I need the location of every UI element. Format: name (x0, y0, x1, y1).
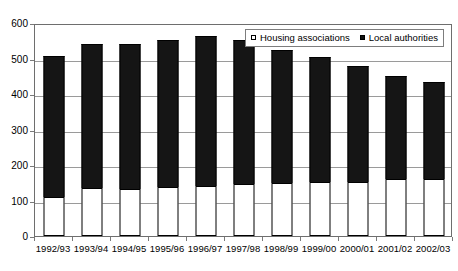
bar-segment-local-authorities (196, 36, 217, 186)
stacked-bar-chart: 600 500 400 300 200 100 0 Housing associ… (0, 0, 458, 271)
bar-group (339, 25, 377, 236)
bar-segment-housing-associations (82, 188, 103, 236)
x-tick-mark (110, 237, 111, 241)
bar-segment-housing-associations (310, 182, 331, 236)
x-tick-label: 2001/02 (378, 243, 412, 254)
bar-segment-housing-associations (120, 189, 141, 236)
x-axis: 1992/931993/941994/951995/961996/971997/… (34, 243, 452, 263)
bar-segment-local-authorities (348, 66, 369, 182)
bar-segment-housing-associations (348, 182, 369, 236)
bar-segment-local-authorities (82, 44, 103, 188)
y-tick-label: 200 (11, 161, 28, 171)
bar-group (377, 25, 415, 236)
x-tick-label: 1992/93 (36, 243, 70, 254)
legend-entry-housing-associations: Housing associations (251, 32, 350, 43)
y-tick-label: 500 (11, 55, 28, 65)
plot-area (34, 24, 452, 237)
open-square-icon (251, 35, 256, 40)
bar-stack (196, 36, 217, 236)
x-tick-mark (34, 237, 35, 241)
bar-segment-housing-associations (234, 184, 255, 236)
bar-segment-housing-associations (272, 183, 293, 236)
bar-group (187, 25, 225, 236)
bar-stack (158, 40, 179, 236)
bar-stack (310, 57, 331, 236)
bar-segment-local-authorities (272, 50, 293, 183)
y-tick-label: 400 (11, 90, 28, 100)
bar-stack (120, 44, 141, 236)
bar-segment-local-authorities (424, 82, 445, 179)
x-tick-label: 1994/95 (112, 243, 146, 254)
bar-stack (386, 76, 407, 236)
y-axis: 600 500 400 300 200 100 0 (0, 0, 34, 271)
bar-group (225, 25, 263, 236)
x-tick-label: 1995/96 (150, 243, 184, 254)
bar-segment-housing-associations (196, 186, 217, 236)
x-tick-label: 1993/94 (74, 243, 108, 254)
x-tick-mark (148, 237, 149, 241)
filled-square-icon (360, 35, 365, 40)
bar-group (111, 25, 149, 236)
bar-segment-local-authorities (386, 76, 407, 179)
x-tick-mark (72, 237, 73, 241)
x-tick-mark (186, 237, 187, 241)
legend: Housing associations Local authorities (245, 29, 444, 47)
x-tick-mark (414, 237, 415, 241)
x-tick-label: 1999/00 (302, 243, 336, 254)
legend-label: Local authorities (369, 32, 438, 43)
legend-label: Housing associations (260, 32, 350, 43)
bar-stack (234, 40, 255, 236)
x-tick-mark (452, 237, 453, 241)
bar-segment-local-authorities (158, 40, 179, 187)
x-tick-mark (224, 237, 225, 241)
bar-segment-housing-associations (386, 179, 407, 236)
bar-group (35, 25, 73, 236)
bar-stack (44, 56, 65, 236)
legend-entry-local-authorities: Local authorities (360, 32, 438, 43)
x-tick-label: 1998/99 (264, 243, 298, 254)
bar-stack (82, 44, 103, 236)
x-tick-mark (376, 237, 377, 241)
bar-stack (272, 50, 293, 236)
bar-segment-local-authorities (120, 44, 141, 188)
y-tick-label: 0 (22, 232, 28, 242)
bar-segment-local-authorities (310, 57, 331, 183)
bars-layer (35, 25, 451, 236)
bar-group (73, 25, 111, 236)
x-tick-label: 2000/01 (340, 243, 374, 254)
bar-segment-housing-associations (44, 197, 65, 236)
y-tick-label: 100 (11, 197, 28, 207)
x-tick-label: 1997/98 (226, 243, 260, 254)
x-tick-mark (262, 237, 263, 241)
bar-segment-local-authorities (44, 56, 65, 197)
bar-group (263, 25, 301, 236)
bar-group (301, 25, 339, 236)
x-tick-mark (300, 237, 301, 241)
y-tick-label: 600 (11, 19, 28, 29)
bar-stack (424, 82, 445, 236)
bar-segment-housing-associations (158, 187, 179, 236)
x-tick-label: 2002/03 (416, 243, 450, 254)
bar-segment-local-authorities (234, 40, 255, 183)
bar-group (415, 25, 453, 236)
bar-group (149, 25, 187, 236)
y-tick-label: 300 (11, 126, 28, 136)
bar-stack (348, 66, 369, 236)
x-tick-label: 1996/97 (188, 243, 222, 254)
bar-segment-housing-associations (424, 179, 445, 237)
x-tick-mark (338, 237, 339, 241)
